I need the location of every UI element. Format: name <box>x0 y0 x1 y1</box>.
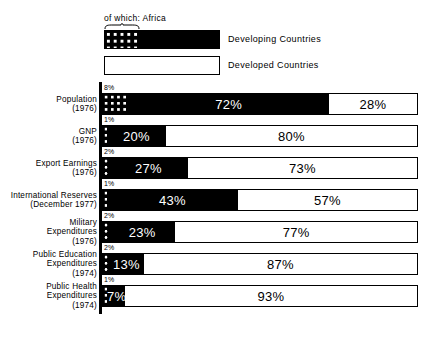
africa-percent-label: 1% <box>104 276 115 283</box>
chart-row: Public EducationExpenditures(1974)2%13%8… <box>0 244 430 276</box>
bar-value-developed: 57% <box>238 193 417 208</box>
chart-row: GNP(1976)1%20%80% <box>0 116 430 148</box>
row-category-label: International Reserves(December 1977) <box>2 191 97 210</box>
africa-percent-label: 1% <box>104 180 115 187</box>
legend-swatch-africa <box>105 31 139 48</box>
chart-row: MilitaryExpenditures(1976)2%23%77% <box>0 212 430 244</box>
bar-value-developed: 77% <box>175 225 417 240</box>
chart-row: Population(1976)8%72%28% <box>0 84 430 116</box>
bar-value-developed: 87% <box>144 257 417 272</box>
chart-legend: of which: Africa Developing Countries De… <box>0 0 430 80</box>
row-category-label: Public HealthExpenditures(1974) <box>2 282 97 310</box>
chart-row: Export Earnings(1976)2%27%73% <box>0 148 430 180</box>
row-category-label: Export Earnings(1976) <box>2 159 97 178</box>
row-category-label: GNP(1976) <box>2 127 97 146</box>
stacked-bar: 43%57% <box>102 189 418 211</box>
stacked-bar: 27%73% <box>102 157 418 179</box>
bar-value-developed: 93% <box>125 289 417 304</box>
bar-value-developing: 27% <box>109 161 188 176</box>
row-category-label: MilitaryExpenditures(1976) <box>2 218 97 246</box>
bar-value-developed: 80% <box>166 129 417 144</box>
legend-swatch-developing <box>104 30 220 49</box>
stacked-bar: 7%93% <box>102 285 418 307</box>
africa-percent-label: 2% <box>104 148 115 155</box>
bar-value-developing: 20% <box>107 129 166 144</box>
africa-percent-label: 1% <box>104 116 115 123</box>
stacked-bar-chart: of which: Africa Developing Countries De… <box>0 0 430 339</box>
stacked-bar: 23%77% <box>102 221 418 243</box>
bar-value-developing: 13% <box>109 257 144 272</box>
row-category-label: Population(1976) <box>2 95 97 114</box>
legend-label-developed: Developed Countries <box>228 60 319 70</box>
bar-value-developing: 43% <box>107 193 238 208</box>
row-category-label: Public EducationExpenditures(1974) <box>2 250 97 278</box>
africa-brace-icon <box>104 23 140 30</box>
africa-percent-label: 2% <box>104 212 115 219</box>
legend-label-developing: Developing Countries <box>228 34 321 44</box>
bar-value-developed: 28% <box>329 97 417 112</box>
chart-row: Public HealthExpenditures(1974)1%7%93% <box>0 276 430 308</box>
bar-value-developing: 7% <box>107 289 125 304</box>
africa-percent-label: 2% <box>104 244 115 251</box>
bar-value-developing: 23% <box>109 225 175 240</box>
stacked-bar: 72%28% <box>102 93 418 115</box>
bar-value-developing: 72% <box>128 97 329 112</box>
stacked-bar: 20%80% <box>102 125 418 147</box>
stacked-bar: 13%87% <box>102 253 418 275</box>
bar-value-developed: 73% <box>188 161 417 176</box>
chart-rows: Population(1976)8%72%28%GNP(1976)1%20%80… <box>0 84 430 308</box>
africa-percent-label: 8% <box>104 84 115 91</box>
chart-row: International Reserves(December 1977)1%4… <box>0 180 430 212</box>
legend-swatch-developed <box>104 56 220 75</box>
africa-annotation-label: of which: Africa <box>104 13 166 23</box>
bar-segment-africa <box>103 94 128 114</box>
